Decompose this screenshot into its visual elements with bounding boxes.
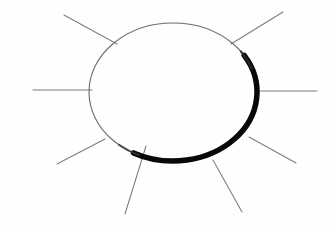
paper-background — [0, 0, 329, 231]
sun-figure: Hand-drawn sun — [0, 0, 329, 231]
drawing-canvas: Hand-drawn sun — [0, 0, 329, 231]
